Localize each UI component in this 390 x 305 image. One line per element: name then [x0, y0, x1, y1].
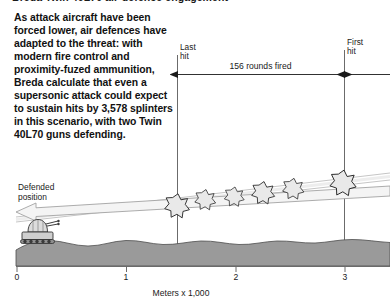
terrain-ground — [16, 240, 390, 267]
axis-caption: Meters x 1,000 — [17, 288, 345, 298]
callout-defended-position: Defended position — [18, 183, 54, 202]
hit-marker-rules — [178, 50, 345, 266]
axis-tick-label-0: 0 — [6, 272, 28, 282]
axis-tick-label-1: 1 — [115, 272, 137, 282]
anti-aircraft-gun-icon — [21, 220, 60, 244]
callout-last-hit: Last hit — [180, 43, 196, 62]
body-paragraph: As attack aircraft have been forced lowe… — [14, 11, 178, 141]
callout-first-hit: First hit — [347, 38, 363, 57]
callout-rounds-fired: 156 rounds fired — [177, 61, 344, 71]
axis-tick-label-3: 3 — [334, 272, 356, 282]
figure-root: Breda Twin 40L70 air-defence engagement — [0, 0, 390, 305]
axis-tick-label-2: 2 — [225, 272, 247, 282]
